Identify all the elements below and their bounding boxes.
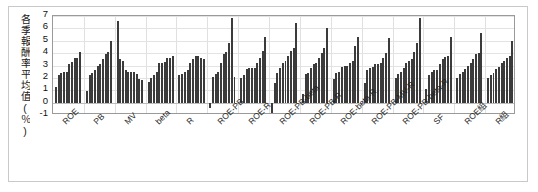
y-tick-label: 4 <box>32 46 48 56</box>
bar <box>166 58 168 103</box>
bar <box>189 63 191 103</box>
bar <box>487 78 489 103</box>
bar <box>99 64 101 102</box>
bar <box>352 61 354 103</box>
bar <box>97 66 99 103</box>
bar <box>419 18 421 102</box>
bar <box>344 66 346 103</box>
bar <box>153 75 155 102</box>
bar <box>293 48 295 102</box>
bar <box>119 59 121 102</box>
bar <box>91 73 93 103</box>
bar <box>125 70 127 102</box>
bar <box>295 23 297 102</box>
bar <box>251 68 253 103</box>
bar <box>55 87 57 103</box>
bar <box>456 78 458 103</box>
bar <box>209 103 211 108</box>
bar <box>105 54 107 102</box>
bar <box>450 37 452 103</box>
bar <box>472 59 474 102</box>
bar <box>181 74 183 102</box>
bar <box>349 63 351 103</box>
y-tick-label: 3 <box>32 59 48 69</box>
chart-figure: 各季報酬率平均值(％) 76543210-1 ROEPBMVbetaRROE-P… <box>0 0 538 192</box>
bar <box>141 80 143 102</box>
bar <box>192 59 194 102</box>
bar <box>464 69 466 102</box>
bar <box>276 73 278 103</box>
bar <box>346 66 348 103</box>
bar <box>122 61 124 103</box>
x-axis-tick-labels: ROEPBMVbetaRROE-PBROE-RROE-PB-betaROE-PB… <box>52 116 515 190</box>
bar <box>287 56 289 103</box>
bars-layer <box>53 16 514 113</box>
bar <box>89 75 91 102</box>
y-tick-label: 2 <box>32 71 48 81</box>
plot-area <box>52 15 515 114</box>
bar <box>495 69 497 102</box>
y-tick-label: -1 <box>32 108 48 118</box>
bar <box>184 72 186 103</box>
bar <box>60 73 62 103</box>
bar <box>501 63 503 103</box>
bar <box>223 54 225 102</box>
bar <box>215 74 217 102</box>
bar <box>117 21 119 103</box>
bar <box>161 63 163 103</box>
y-tick-label: 1 <box>32 84 48 94</box>
bar <box>158 63 160 103</box>
bar <box>150 78 152 103</box>
bar <box>231 18 233 102</box>
bar <box>136 74 138 102</box>
bar <box>475 54 477 102</box>
bar <box>76 58 78 103</box>
bar <box>493 73 495 103</box>
bar <box>470 63 472 103</box>
bar <box>133 72 135 103</box>
bar <box>58 75 60 102</box>
bar <box>195 56 197 103</box>
bar <box>380 63 382 103</box>
bar <box>68 64 70 102</box>
bar <box>156 72 158 103</box>
bar <box>148 82 150 103</box>
bar <box>71 62 73 103</box>
bar <box>127 72 129 103</box>
bar <box>318 58 320 103</box>
bar <box>254 68 256 103</box>
bar <box>478 53 480 103</box>
bar <box>274 83 276 103</box>
y-axis-tick-labels: 76543210-1 <box>32 14 48 114</box>
bar <box>264 37 266 103</box>
bar <box>169 58 171 103</box>
bar <box>506 58 508 103</box>
bar <box>107 52 109 103</box>
bar <box>172 56 174 103</box>
bar <box>256 63 258 103</box>
bar <box>225 52 227 103</box>
bar <box>228 43 230 102</box>
bar <box>220 63 222 103</box>
bar <box>279 68 281 103</box>
bar <box>164 62 166 103</box>
bar <box>382 58 384 103</box>
bar <box>86 91 88 102</box>
bar <box>94 70 96 102</box>
bar <box>262 51 264 103</box>
bar <box>413 52 415 103</box>
bar <box>467 66 469 103</box>
bar <box>315 63 317 103</box>
y-tick-label: 7 <box>32 9 48 19</box>
bar <box>357 37 359 103</box>
bar <box>282 63 284 103</box>
bar <box>498 67 500 103</box>
y-tick-label: 6 <box>32 22 48 32</box>
bar <box>248 68 250 103</box>
bar <box>459 74 461 102</box>
bar <box>110 41 112 103</box>
bar <box>285 61 287 103</box>
bar <box>102 59 104 102</box>
bar <box>377 64 379 102</box>
y-tick-label: 0 <box>32 96 48 106</box>
